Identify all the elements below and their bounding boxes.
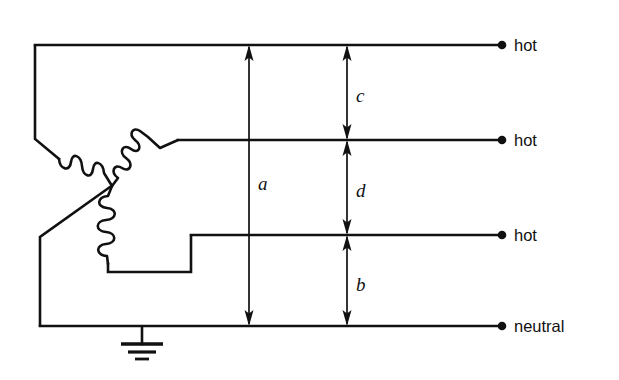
hot-3-terminal-dot <box>498 231 507 240</box>
dimension-d-arrow <box>343 140 352 235</box>
hot-1-terminal-dot <box>498 41 507 50</box>
hot-1-label: hot <box>514 37 537 54</box>
dimension-d-label: d <box>356 181 366 200</box>
upper-left-lead <box>35 46 59 159</box>
dimension-a-arrow <box>245 45 254 326</box>
dimension-c-label: c <box>356 86 364 105</box>
neutral-label: neutral <box>514 318 564 335</box>
hot-2-terminal-dot <box>498 136 507 145</box>
hot-2-label: hot <box>514 132 537 149</box>
dimension-c-arrow <box>343 45 352 140</box>
winding-top-coil <box>112 129 178 186</box>
hot-3-label: hot <box>514 227 537 244</box>
center-tap-lead <box>108 236 191 272</box>
wiring-diagram: hot hot hot neutral a c d b <box>0 0 619 380</box>
winding-center-tapped-coil <box>98 186 115 264</box>
conductor-group <box>35 45 502 326</box>
winding-left-coil <box>59 156 112 186</box>
neutral-terminal-dot <box>498 322 507 331</box>
transformer-windings <box>59 129 178 264</box>
lower-left-lead <box>40 187 110 325</box>
terminal-dot-group <box>498 41 507 331</box>
dimension-b-arrow <box>343 235 352 326</box>
dimension-b-label: b <box>356 275 366 294</box>
earth-ground-symbol <box>121 327 163 359</box>
dimension-a-label: a <box>258 174 268 193</box>
